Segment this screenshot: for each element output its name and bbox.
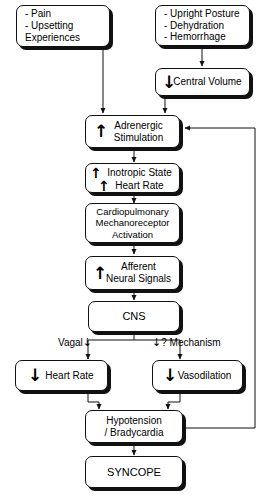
node-afferent-neural-signals: ↑ Afferent Neural Signals xyxy=(85,256,180,290)
node-mechanoreceptor-activation-label: Cardiopulmonary Mechanoreceptor Activati… xyxy=(96,206,170,240)
node-hypotension-bradycardia: Hypotension / Bradycardia xyxy=(85,410,183,443)
node-syncope: SYNCOPE xyxy=(85,456,183,488)
edge-label-vagal-text: Vagal xyxy=(58,337,83,348)
node-mechanoreceptor-activation: Cardiopulmonary Mechanoreceptor Activati… xyxy=(85,203,180,243)
node-triggers: - Pain - Upsetting Experiences xyxy=(16,5,110,47)
up-arrow-icon: ↑ xyxy=(94,123,108,140)
node-cns-label: CNS xyxy=(122,310,145,323)
edge-label-mechanism-text: ? Mechanism xyxy=(161,337,220,348)
node-central-volume: ↓ Central Volume xyxy=(155,68,250,96)
node-preload-label: - Upright Posture - Dehydration - Hemorr… xyxy=(164,8,240,43)
up-arrow-icon-heart-rate: ↑ xyxy=(98,179,110,193)
node-adrenergic-stimulation-label: Adrenergic Stimulation xyxy=(102,120,163,144)
up-arrow-icon-afferent: ↑ xyxy=(93,265,107,282)
node-inotropic-state: ↑ Inotropic State ↑ Heart Rate xyxy=(85,163,180,193)
node-preload: - Upright Posture - Dehydration - Hemorr… xyxy=(155,5,250,46)
edge-heart-rate-to-hypotension xyxy=(88,391,99,409)
node-vasodilation: ↓ Vasodilation xyxy=(152,360,243,391)
edge-label-vagal: Vagal↓ xyxy=(58,336,92,349)
down-arrow-icon: ↓ xyxy=(162,74,176,91)
edge-vasodilation-to-hypotension xyxy=(168,391,180,409)
node-cns: CNS xyxy=(88,301,180,332)
edge-label-mechanism: ↓? Mechanism xyxy=(152,336,221,349)
down-arrow-icon-vasodilation: ↓ xyxy=(163,367,177,384)
down-arrow-icon-vagal: ↓ xyxy=(83,336,92,349)
down-arrow-icon-mechanism: ↓ xyxy=(152,336,161,349)
node-heart-rate-decrease: ↓ Heart Rate xyxy=(15,360,108,391)
node-adrenergic-stimulation: ↑ Adrenergic Stimulation xyxy=(85,115,180,148)
node-triggers-label: - Pain - Upsetting Experiences xyxy=(25,8,80,43)
flowchart-diagram: - Pain - Upsetting Experiences - Upright… xyxy=(0,0,263,497)
node-hypotension-bradycardia-label: Hypotension / Bradycardia xyxy=(105,415,164,439)
down-arrow-icon-heart-rate: ↓ xyxy=(28,367,42,384)
node-syncope-label: SYNCOPE xyxy=(107,466,161,479)
